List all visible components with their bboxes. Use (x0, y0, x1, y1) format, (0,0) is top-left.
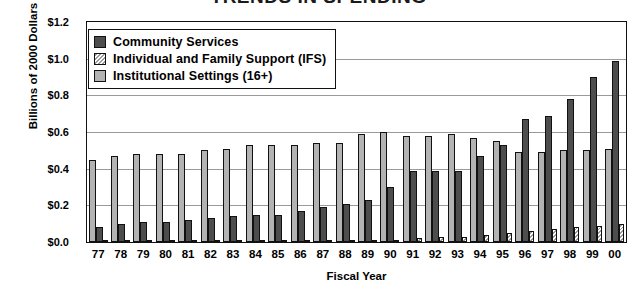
bar-inst (493, 141, 500, 242)
chart-legend: Community ServicesIndividual and Family … (88, 29, 336, 89)
bar-ifs (125, 240, 130, 242)
bar-inst (448, 134, 455, 242)
legend-item-label: Individual and Family Support (IFS) (113, 52, 326, 66)
x-axis-tick-label: 95 (490, 248, 514, 260)
x-axis-title: Fiscal Year (86, 270, 627, 282)
bar-group (403, 22, 423, 242)
y-axis-tick-label: $0.2 (9, 199, 69, 211)
bar-comm (298, 211, 305, 242)
bar-group (336, 22, 356, 242)
y-axis-tick-label: $0.0 (9, 236, 69, 248)
legend-item: Community Services (94, 33, 326, 50)
bar-inst (111, 156, 118, 242)
bar-ifs (372, 240, 377, 242)
bar-inst (583, 150, 590, 242)
bar-group (448, 22, 468, 242)
bar-comm (185, 220, 192, 242)
x-axis-ticks: 7778798081828384858687888990919293949596… (87, 248, 626, 264)
bar-ifs (282, 240, 287, 242)
bar-ifs (574, 227, 579, 242)
legend-swatch-icon (94, 36, 106, 48)
bar-inst (89, 160, 96, 243)
x-axis-tick-label: 94 (468, 248, 492, 260)
bar-inst (268, 145, 275, 242)
x-axis-tick-label: 84 (243, 248, 267, 260)
bar-inst (403, 136, 410, 242)
x-axis-tick-label: 88 (333, 248, 357, 260)
bar-comm (410, 171, 417, 243)
y-axis-tick-label: $1.0 (9, 53, 69, 65)
bar-comm (163, 222, 170, 242)
bar-ifs (619, 224, 624, 242)
x-axis-tick-label: 99 (580, 248, 604, 260)
bar-group (425, 22, 445, 242)
y-axis-tick-label: $1.2 (9, 16, 69, 28)
bar-inst (201, 150, 208, 242)
x-axis-tick-label: 86 (288, 248, 312, 260)
bar-ifs (484, 235, 489, 242)
x-axis-tick-label: 97 (535, 248, 559, 260)
bar-inst (313, 143, 320, 242)
bar-ifs (394, 240, 399, 242)
bar-comm (320, 207, 327, 242)
y-axis-tick-label: $0.8 (9, 89, 69, 101)
x-axis-tick-label: 98 (558, 248, 582, 260)
bar-ifs (103, 240, 108, 242)
legend-swatch-icon (94, 70, 106, 82)
bar-comm (140, 222, 147, 242)
bar-ifs (305, 240, 310, 242)
bar-inst (336, 143, 343, 242)
bar-comm (96, 227, 103, 242)
bar-inst (223, 149, 230, 243)
bar-inst (178, 154, 185, 242)
x-axis-tick-label: 82 (199, 248, 223, 260)
x-axis-tick-label: 96 (513, 248, 537, 260)
x-axis-tick-label: 91 (401, 248, 425, 260)
bar-ifs (170, 240, 175, 242)
legend-swatch-icon (94, 53, 106, 65)
bar-ifs (215, 240, 220, 242)
bar-ifs (552, 229, 557, 242)
bar-comm (522, 119, 529, 242)
x-axis-tick-label: 93 (446, 248, 470, 260)
bar-inst (291, 145, 298, 242)
bar-group (605, 22, 625, 242)
bar-ifs (237, 240, 242, 242)
bar-ifs (597, 226, 602, 243)
bar-ifs (529, 231, 534, 242)
bar-group (470, 22, 490, 242)
x-axis-tick-label: 81 (176, 248, 200, 260)
bar-group (583, 22, 603, 242)
bar-comm (387, 187, 394, 242)
bar-ifs (260, 240, 265, 242)
bar-comm (275, 215, 282, 243)
bar-inst (425, 136, 432, 242)
bar-group (358, 22, 378, 242)
legend-item: Institutional Settings (16+) (94, 67, 326, 84)
bar-inst (538, 152, 545, 242)
bar-inst (605, 149, 612, 243)
bar-comm (567, 99, 574, 242)
bar-group (493, 22, 513, 242)
x-axis-tick-label: 00 (603, 248, 627, 260)
bar-comm (545, 116, 552, 243)
bar-inst (133, 154, 140, 242)
x-axis-tick-label: 92 (423, 248, 447, 260)
bar-comm (455, 171, 462, 243)
legend-item-label: Institutional Settings (16+) (113, 69, 272, 83)
legend-item: Individual and Family Support (IFS) (94, 50, 326, 67)
bar-comm (500, 145, 507, 242)
bar-inst (380, 132, 387, 242)
bar-comm (230, 216, 237, 242)
bar-comm (477, 156, 484, 242)
bar-comm (612, 61, 619, 243)
x-axis-tick-label: 87 (311, 248, 335, 260)
bar-ifs (327, 240, 332, 242)
bar-inst (560, 150, 567, 242)
bar-ifs (439, 237, 444, 243)
bar-inst (358, 134, 365, 242)
bar-group (380, 22, 400, 242)
bar-comm (432, 171, 439, 243)
bar-comm (208, 218, 215, 242)
bar-comm (343, 204, 350, 243)
